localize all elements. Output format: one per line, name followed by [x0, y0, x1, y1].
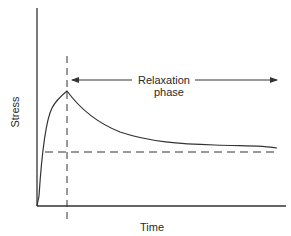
annotation-phase: phase — [154, 86, 184, 98]
y-axis-label: Stress — [9, 96, 21, 128]
x-axis-label: Time — [140, 221, 164, 233]
stress-relaxation-diagram: Relaxation phase Stress Time — [0, 0, 291, 236]
stress-curve — [37, 91, 277, 206]
annotation-relaxation: Relaxation — [138, 74, 190, 86]
